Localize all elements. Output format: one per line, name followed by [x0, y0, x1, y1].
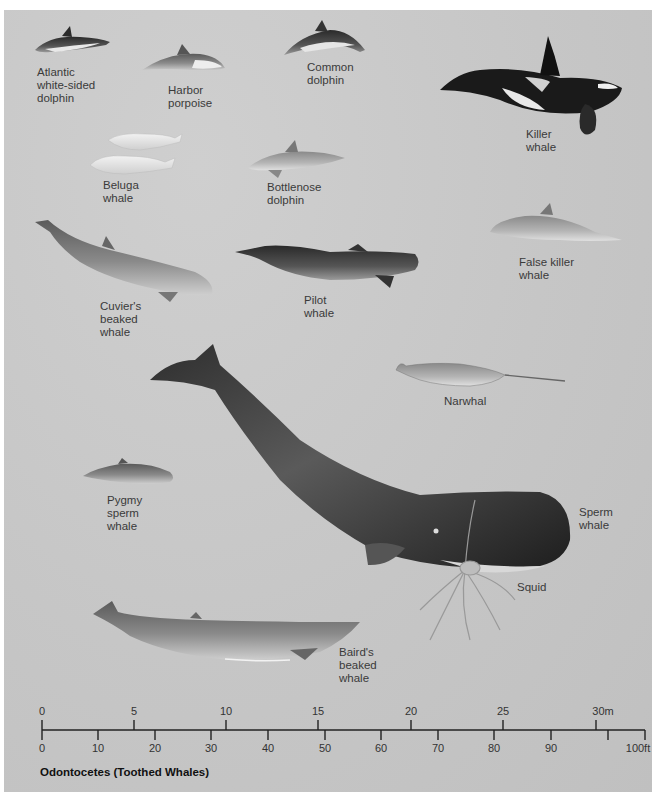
scale-ft-tick: 80: [488, 742, 500, 754]
sperm-whale-illustration: [150, 344, 570, 572]
label-sperm-whale: Sperm whale: [579, 506, 613, 532]
label-bairds-beaked-whale: Baird's beaked whale: [339, 646, 377, 685]
scale-m-tick: 15: [312, 705, 324, 717]
scale-m-tick: 25: [497, 705, 509, 717]
killer-whale-illustration: [440, 36, 622, 135]
narwhal-illustration: [396, 363, 565, 386]
label-beluga-whale: Beluga whale: [103, 179, 139, 205]
harbor-porpoise-illustration: [142, 44, 225, 71]
label-killer-whale: Killer whale: [526, 128, 556, 154]
scale-ft-tick: 0: [39, 742, 45, 754]
whale-illustrations: [0, 0, 657, 806]
label-harbor-porpoise: Harbor porpoise: [168, 84, 212, 110]
bairds-beaked-whale-illustration: [93, 601, 360, 661]
scale-ft-tick: 90: [545, 742, 557, 754]
cuviers-beaked-whale-illustration: [35, 220, 212, 302]
scale-ft-tick: 40: [262, 742, 274, 754]
label-false-killer-whale: False killer whale: [519, 256, 574, 282]
label-narwhal: Narwhal: [444, 395, 486, 408]
bottlenose-dolphin-illustration: [248, 140, 345, 178]
scale-ft-tick: 10: [92, 742, 104, 754]
beluga-whale-illustration: [90, 134, 182, 174]
scale-ft-tick: 60: [375, 742, 387, 754]
atlantic-white-sided-dolphin-illustration: [35, 26, 110, 52]
scale-m-tick: 20: [405, 705, 417, 717]
pilot-whale-illustration: [235, 244, 419, 288]
false-killer-whale-illustration: [490, 203, 622, 241]
scale-m-tick: 30m: [592, 705, 613, 717]
scale-ft-tick: 70: [432, 742, 444, 754]
scale-ft-tick: 20: [149, 742, 161, 754]
common-dolphin-illustration: [284, 20, 365, 55]
scale-ft-tick: 30: [205, 742, 217, 754]
scale-m-tick: 10: [220, 705, 232, 717]
scale-ft-tick: 100ft: [626, 742, 650, 754]
label-atlantic-white-sided-dolphin: Atlantic white-sided dolphin: [37, 66, 95, 105]
label-squid: Squid: [517, 581, 546, 594]
pygmy-sperm-whale-illustration: [83, 458, 173, 484]
scale-m-tick: 0: [39, 705, 45, 717]
label-pygmy-sperm-whale: Pygmy sperm whale: [107, 494, 142, 533]
label-common-dolphin: Common dolphin: [307, 61, 354, 87]
scale-bar: [42, 720, 645, 740]
scale-m-tick: 5: [131, 705, 137, 717]
scale-ft-tick: 50: [319, 742, 331, 754]
label-bottlenose-dolphin: Bottlenose dolphin: [267, 181, 321, 207]
label-cuviers-beaked-whale: Cuvier's beaked whale: [100, 300, 141, 339]
label-pilot-whale: Pilot whale: [304, 294, 334, 320]
figure-title: Odontocetes (Toothed Whales): [40, 766, 209, 778]
